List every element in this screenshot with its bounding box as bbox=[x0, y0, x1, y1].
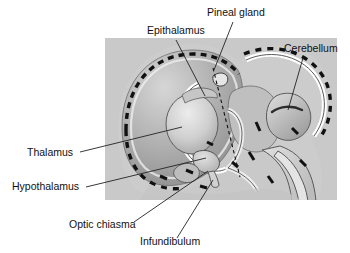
label-infundibulum: Infundibulum bbox=[140, 235, 200, 247]
brain-anatomy-figure: Pineal gland Epithalamus Cerebellum Thal… bbox=[0, 0, 350, 253]
label-pineal-gland: Pineal gland bbox=[207, 6, 265, 18]
label-cerebellum: Cerebellum bbox=[284, 42, 338, 54]
label-hypothalamus: Hypothalamus bbox=[12, 180, 79, 192]
label-epithalamus: Epithalamus bbox=[147, 24, 205, 36]
label-optic-chiasma: Optic chiasma bbox=[69, 218, 136, 230]
cerebellum-region bbox=[266, 93, 310, 140]
diagram-canvas: Pineal gland Epithalamus Cerebellum Thal… bbox=[0, 0, 350, 253]
label-thalamus: Thalamus bbox=[27, 146, 73, 158]
